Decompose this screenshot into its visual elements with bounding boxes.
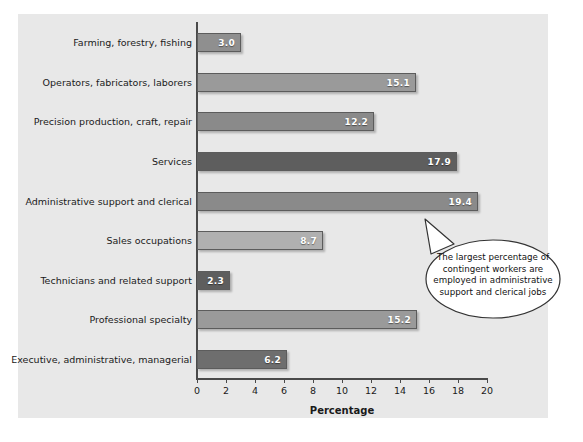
bar: 12.2 (197, 112, 374, 131)
category-label: Farming, forestry, fishing (0, 33, 192, 52)
x-axis-tick (284, 378, 285, 383)
x-axis-tick (342, 378, 343, 383)
x-axis-tick-label: 12 (365, 385, 377, 396)
category-label: Professional specialty (0, 310, 192, 329)
bar: 15.2 (197, 310, 417, 329)
bar-value-label: 19.4 (449, 197, 472, 207)
x-axis-title: Percentage (197, 405, 487, 416)
callout-text-line: employed in administrative (431, 275, 555, 287)
x-axis-tick (400, 378, 401, 383)
bar-value-label: 15.1 (387, 78, 410, 88)
chart-figure: 3.015.112.217.919.48.72.315.26.2 Farming… (0, 0, 583, 442)
bar-value-label: 17.9 (428, 157, 451, 167)
bar: 6.2 (197, 350, 287, 369)
category-label: Precision production, craft, repair (0, 112, 192, 131)
x-axis-tick (313, 378, 314, 383)
bar: 2.3 (197, 271, 230, 290)
category-label: Operators, fabricators, laborers (0, 73, 192, 92)
callout-text: The largest percentage ofcontingent work… (431, 252, 555, 298)
x-axis-tick-label: 10 (336, 385, 348, 396)
bar: 8.7 (197, 231, 323, 250)
x-axis-tick-label: 18 (452, 385, 464, 396)
x-axis-tick-label: 20 (481, 385, 493, 396)
x-axis-tick-label: 8 (310, 385, 316, 396)
category-label: Services (0, 152, 192, 171)
category-label: Executive, administrative, managerial (0, 350, 192, 369)
x-axis-tick-label: 6 (281, 385, 287, 396)
callout-text-line: The largest percentage of (431, 252, 555, 264)
x-axis-tick (255, 378, 256, 383)
category-label: Sales occupations (0, 231, 192, 250)
callout-text-line: contingent workers are (431, 264, 555, 276)
x-axis-tick (197, 378, 198, 383)
x-axis-tick-label: 4 (252, 385, 258, 396)
bar: 15.1 (197, 73, 416, 92)
x-axis-tick-label: 2 (223, 385, 229, 396)
x-axis-tick (226, 378, 227, 383)
x-axis-tick (429, 378, 430, 383)
x-axis-tick-label: 14 (394, 385, 406, 396)
x-axis-tick (371, 378, 372, 383)
category-label: Technicians and related support (0, 271, 192, 290)
bar: 17.9 (197, 152, 457, 171)
x-axis-tick (458, 378, 459, 383)
x-axis-tick (487, 378, 488, 383)
bar-value-label: 6.2 (264, 355, 281, 365)
bar-value-label: 3.0 (218, 38, 235, 48)
bar-value-label: 8.7 (300, 236, 317, 246)
bar-value-label: 15.2 (388, 315, 411, 325)
bar: 3.0 (197, 33, 241, 52)
callout-text-line: support and clerical jobs (431, 287, 555, 299)
bar-value-label: 12.2 (345, 117, 368, 127)
bar-value-label: 2.3 (207, 276, 224, 286)
callout-bubble: The largest percentage ofcontingent work… (423, 207, 563, 325)
category-label: Administrative support and clerical (0, 192, 192, 211)
x-axis-tick-label: 0 (194, 385, 200, 396)
x-axis-tick-label: 16 (423, 385, 435, 396)
